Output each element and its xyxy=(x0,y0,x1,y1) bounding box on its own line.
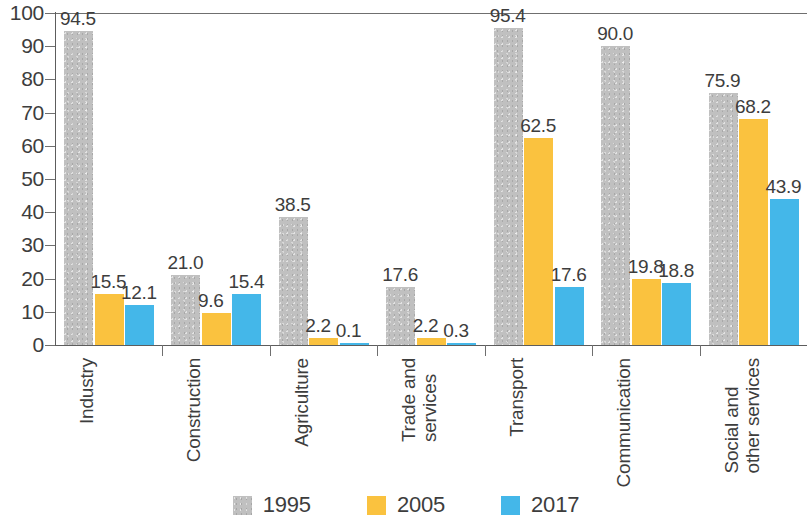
legend-item-2005[interactable]: 2005 xyxy=(367,492,445,518)
bar-value-label: 94.5 xyxy=(60,8,96,30)
y-axis-tick-label: 20 xyxy=(0,267,44,291)
y-axis-tick-label: 90 xyxy=(0,34,44,58)
bar-1995 xyxy=(601,46,630,345)
bar-group: 21.09.615.4 xyxy=(162,13,269,345)
y-axis-tick-label: 100 xyxy=(0,1,44,25)
bar-1995 xyxy=(494,28,523,345)
bar-value-label: 0.3 xyxy=(443,320,469,342)
legend-item-1995[interactable]: 1995 xyxy=(233,492,311,518)
x-axis-line xyxy=(55,345,807,346)
bar-2017 xyxy=(662,283,691,345)
bar-2005 xyxy=(309,338,338,345)
bar-1995 xyxy=(386,287,415,345)
bar-value-label: 95.4 xyxy=(490,5,526,27)
category-label: Transport xyxy=(507,358,528,437)
bar-2017 xyxy=(447,343,476,346)
bar-1995 xyxy=(709,93,738,345)
bar-value-label: 68.2 xyxy=(735,96,771,118)
category-label: Construction xyxy=(184,358,205,462)
x-axis-tick xyxy=(592,345,593,356)
x-axis-tick xyxy=(485,345,486,356)
legend-swatch-icon xyxy=(367,496,386,515)
y-axis-tick xyxy=(45,212,55,213)
bar-value-label: 2.2 xyxy=(413,315,439,337)
bar-group: 17.62.20.3 xyxy=(377,13,484,345)
y-axis-tick xyxy=(45,312,55,313)
bar-2005 xyxy=(202,313,231,345)
bar-value-label: 75.9 xyxy=(705,70,741,92)
y-axis-tick xyxy=(45,245,55,246)
legend-label: 2005 xyxy=(397,492,445,518)
bar-group: 94.515.512.1 xyxy=(55,13,162,345)
bar-value-label: 43.9 xyxy=(766,176,802,198)
y-axis-tick-label: 30 xyxy=(0,233,44,257)
bar-2005 xyxy=(417,338,446,345)
bar-2017 xyxy=(125,305,154,345)
bar-value-label: 38.5 xyxy=(275,194,311,216)
bar-value-label: 0.1 xyxy=(336,320,362,342)
x-axis-tick xyxy=(270,345,271,356)
bar-2017 xyxy=(232,294,261,345)
bar-value-label: 62.5 xyxy=(520,115,556,137)
bar-2005 xyxy=(95,294,124,345)
legend-swatch-icon xyxy=(501,496,520,515)
y-axis-tick-label: 0 xyxy=(0,333,44,357)
legend-swatch-icon xyxy=(233,496,252,515)
y-axis-tick xyxy=(45,46,55,47)
y-axis-tick-label: 10 xyxy=(0,300,44,324)
category-label: Industry xyxy=(77,358,98,424)
bar-group: 75.968.243.9 xyxy=(700,13,807,345)
bar-1995 xyxy=(64,31,93,345)
category-label: Social and other services xyxy=(722,358,763,473)
bar-1995 xyxy=(279,217,308,345)
bar-value-label: 2.2 xyxy=(305,315,331,337)
bar-2017 xyxy=(770,199,799,345)
y-axis-tick xyxy=(45,113,55,114)
bar-value-label: 9.6 xyxy=(198,290,224,312)
category-label: Communication xyxy=(614,358,635,487)
bar-group: 90.019.818.8 xyxy=(592,13,699,345)
chart-legend: 199520052017 xyxy=(0,492,812,518)
y-axis-tick xyxy=(45,79,55,80)
bar-value-label: 17.6 xyxy=(551,264,587,286)
bar-1995 xyxy=(171,275,200,345)
y-axis-tick xyxy=(45,146,55,147)
y-axis-tick-label: 80 xyxy=(0,67,44,91)
y-axis-tick-label: 70 xyxy=(0,101,44,125)
bar-chart: 0102030405060708090100 94.515.512.121.09… xyxy=(0,0,812,524)
legend-label: 2017 xyxy=(531,492,579,518)
x-axis-tick xyxy=(700,345,701,356)
legend-label: 1995 xyxy=(263,492,311,518)
category-label: Trade and services xyxy=(399,358,440,442)
y-axis-tick xyxy=(45,179,55,180)
y-axis-tick xyxy=(45,13,55,14)
y-axis-tick-label: 60 xyxy=(0,134,44,158)
bar-value-label: 90.0 xyxy=(597,23,633,45)
bar-2017 xyxy=(340,343,369,346)
bar-value-label: 12.1 xyxy=(121,282,157,304)
legend-item-2017[interactable]: 2017 xyxy=(501,492,579,518)
y-axis-tick-label: 40 xyxy=(0,200,44,224)
bar-2005 xyxy=(632,279,661,345)
x-axis-tick xyxy=(377,345,378,356)
y-axis-tick xyxy=(45,345,55,346)
bar-value-label: 15.4 xyxy=(228,271,264,293)
bar-value-label: 21.0 xyxy=(167,252,203,274)
x-axis-tick xyxy=(162,345,163,356)
bar-value-label: 18.8 xyxy=(658,260,694,282)
bar-group: 38.52.20.1 xyxy=(270,13,377,345)
bar-group: 95.462.517.6 xyxy=(485,13,592,345)
bar-value-label: 17.6 xyxy=(382,264,418,286)
y-axis-tick xyxy=(45,279,55,280)
bar-2017 xyxy=(555,287,584,345)
bar-2005 xyxy=(524,138,553,346)
category-label: Agriculture xyxy=(292,358,313,447)
bar-2005 xyxy=(739,119,768,345)
y-axis-tick-label: 50 xyxy=(0,167,44,191)
